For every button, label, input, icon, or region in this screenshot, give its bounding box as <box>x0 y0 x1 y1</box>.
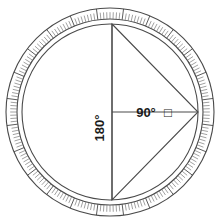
label-90-degrees-text: 90° <box>136 105 156 120</box>
ring-minor-tick <box>78 17 80 23</box>
ring-minor-tick <box>69 197 72 203</box>
ring-minor-tick <box>14 136 21 138</box>
ring-segment-divider <box>7 124 18 125</box>
ring-minor-tick <box>91 203 92 210</box>
ring-segment-divider <box>122 9 123 20</box>
ring-minor-tick <box>35 46 40 50</box>
ring-minor-tick <box>81 201 83 208</box>
ring-minor-tick <box>140 200 142 206</box>
ring-minor-tick <box>52 188 56 194</box>
ring-minor-tick <box>27 164 33 168</box>
ring-minor-tick <box>195 71 201 74</box>
ring-minor-tick <box>66 22 69 28</box>
ring-minor-tick <box>12 130 19 131</box>
ring-minor-tick <box>11 121 18 122</box>
ring-minor-tick <box>47 184 51 189</box>
ring-segment-divider <box>96 9 97 20</box>
ring-minor-tick <box>176 41 181 46</box>
ring-minor-tick <box>37 176 42 181</box>
ring-minor-tick <box>100 13 101 20</box>
ring-minor-tick <box>174 180 179 185</box>
ring-minor-tick <box>140 17 142 23</box>
ring-minor-tick <box>128 14 129 21</box>
ring-segment-divider <box>167 186 174 195</box>
ring-minor-tick <box>37 44 42 49</box>
ring-minor-tick <box>137 16 139 23</box>
ring-minor-tick <box>193 153 199 156</box>
ring-minor-tick <box>154 194 157 200</box>
ring-segment-divider <box>47 29 54 38</box>
ring-minor-tick <box>17 145 23 147</box>
ring-minor-tick <box>60 26 63 32</box>
ring-minor-tick <box>11 102 18 103</box>
ring-minor-tick <box>180 46 185 50</box>
ring-minor-tick <box>66 195 69 201</box>
ring-segment-divider <box>27 49 36 56</box>
ring-minor-tick <box>12 93 19 94</box>
ring-minor-tick <box>14 86 21 88</box>
ring-minor-tick <box>12 96 19 97</box>
ring-minor-tick <box>187 57 193 61</box>
ring-segment-divider <box>14 148 24 152</box>
ring-minor-tick <box>33 171 38 175</box>
ring-minor-tick <box>87 15 89 22</box>
ring-minor-tick <box>199 139 206 141</box>
ring-segment-divider <box>184 49 193 56</box>
ring-minor-tick <box>84 16 86 23</box>
ring-minor-tick <box>164 188 168 194</box>
ring-minor-tick <box>42 39 47 44</box>
ring-minor-tick <box>55 29 59 35</box>
ring-minor-tick <box>178 176 183 181</box>
ring-minor-tick <box>189 59 195 63</box>
ring-minor-tick <box>171 182 175 187</box>
ring-segment-divider <box>7 98 18 99</box>
ring-minor-tick <box>192 156 198 159</box>
ring-minor-tick <box>24 159 30 162</box>
ring-minor-tick <box>25 59 31 63</box>
ring-minor-tick <box>119 13 120 20</box>
ring-minor-tick <box>19 150 25 153</box>
ring-minor-tick <box>201 130 208 131</box>
ring-minor-tick <box>20 68 26 71</box>
ring-minor-tick <box>94 14 95 21</box>
ring-minor-tick <box>42 180 47 185</box>
ring-minor-tick <box>57 27 61 33</box>
ring-minor-tick <box>202 96 209 97</box>
ring-minor-tick <box>164 31 168 37</box>
ring-segment-divider <box>14 72 24 76</box>
ring-minor-tick <box>171 37 175 42</box>
ring-minor-tick <box>131 15 133 22</box>
ring-minor-tick <box>131 203 133 210</box>
ring-segment-divider <box>184 169 193 176</box>
ring-minor-tick <box>75 19 77 25</box>
ring-minor-tick <box>203 102 210 103</box>
ring-minor-tick <box>201 89 208 91</box>
ring-minor-tick <box>33 49 38 53</box>
ring-minor-tick <box>159 191 163 197</box>
ring-segment-divider <box>47 186 54 195</box>
ring-minor-tick <box>201 133 208 135</box>
ring-minor-tick <box>193 68 199 71</box>
ring-minor-tick <box>192 65 198 68</box>
ring-minor-tick <box>201 93 208 94</box>
ring-minor-tick <box>47 35 51 40</box>
ring-minor-tick <box>169 184 173 189</box>
ring-minor-tick <box>157 26 160 32</box>
ring-minor-tick <box>25 161 31 165</box>
ring-minor-tick <box>81 16 83 23</box>
ring-minor-tick <box>22 65 28 68</box>
ring-minor-tick <box>63 194 66 200</box>
ring-minor-tick <box>55 189 59 195</box>
ring-minor-tick <box>182 49 187 53</box>
ring-minor-tick <box>91 14 92 21</box>
label-180-degrees: 180° <box>92 115 107 142</box>
ring-minor-tick <box>195 150 201 153</box>
ring-minor-tick <box>162 29 166 35</box>
ring-minor-tick <box>15 80 21 82</box>
ring-minor-tick <box>35 173 40 177</box>
ring-segment-divider <box>146 198 150 208</box>
ring-minor-tick <box>78 200 80 206</box>
ring-minor-tick <box>199 83 206 85</box>
ring-minor-tick <box>87 203 89 210</box>
ring-segment-divider <box>202 124 213 125</box>
